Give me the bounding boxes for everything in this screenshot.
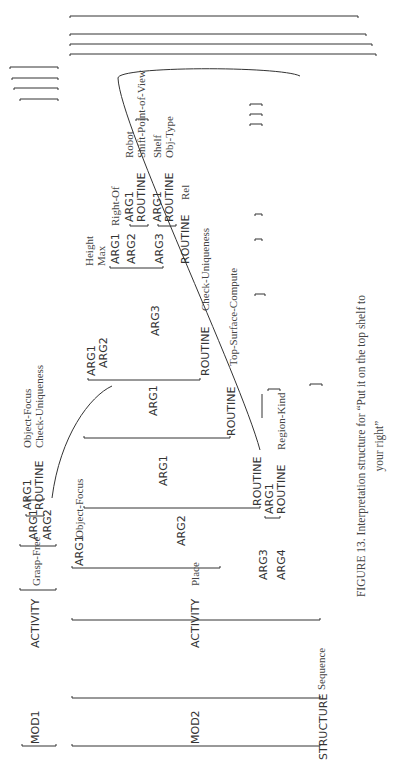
mod2-arg1-key: ARG1: [74, 535, 85, 566]
arg4-routine-key: ROUTINE: [276, 465, 287, 515]
structure-value: Sequence: [316, 648, 327, 690]
deep-arg3-key: ARG3: [150, 305, 161, 336]
height-value: Height: [84, 236, 95, 266]
mod2-arg2-arg1-arg1-key: ARG1: [148, 385, 159, 416]
mod2-activity-key: ACTIVITY: [190, 599, 201, 648]
mod2-arg2-key: ARG2: [176, 515, 187, 546]
mod2-label: MOD2: [190, 710, 201, 744]
arg3-routine-key: ROUTINE: [180, 215, 191, 265]
shelf-arg1-key: ARG1: [152, 191, 163, 222]
mod1-activity-value: Grasp-Free: [31, 537, 42, 586]
right-of-routine-key: ROUTINE: [136, 173, 147, 223]
arg3-arg1-key: ARG1: [110, 233, 121, 264]
mod2-arg2-arg1-key: ARG1: [158, 455, 169, 486]
figure-caption-line1: FIGURE 13. Interpretation structure for …: [356, 216, 368, 676]
deep-arg1-key: ARG1: [86, 345, 97, 376]
arg4-routine-value: Region-Kind: [276, 393, 287, 450]
max-value: Max: [96, 246, 107, 266]
deep-arg2-key: ARG2: [98, 337, 109, 368]
mod1-arg1-key: ARG1: [28, 509, 39, 540]
mod2-arg1-value: Object-Focus: [74, 479, 85, 538]
right-of-arg1-key: ARG1: [124, 191, 135, 222]
deep-routine-key: ROUTINE: [200, 327, 211, 377]
mod2-arg4-key: ARG4: [276, 549, 287, 580]
mod2-arg3-key: ARG3: [258, 549, 269, 580]
mod1-bracket-left: [22, 744, 56, 746]
arg3-routine-value: Rel: [180, 185, 191, 200]
arg3-arg3-key: ARG3: [154, 233, 165, 264]
mod1-activity-key: ACTIVITY: [30, 599, 41, 648]
figure-caption-line2: your right”: [374, 216, 386, 676]
mod1-label: MOD1: [30, 710, 41, 744]
figure-13-interpretation-structure: MOD1 ACTIVITY Grasp-Free ARG1 ARG2 ARG1 …: [0, 0, 407, 766]
mod1-inner-arg1-value: Object-Focus: [22, 389, 33, 448]
mod1-inner-routine-value: Check-Uniqueness: [34, 365, 45, 448]
shelf-arg1-value: Shelf: [152, 135, 163, 158]
arg3-arg2-key: ARG2: [126, 233, 137, 264]
shelf-routine-value: Obj-Type: [164, 116, 175, 158]
deep-routine-value: Check-Uniqueness: [200, 228, 211, 311]
right-of-routine-value: Shift-Point-of-View: [136, 70, 147, 158]
arg4-arg1-key: ARG1: [264, 483, 275, 514]
mod2-arg2-arg1-routine-key: ROUTINE: [226, 387, 237, 437]
structure-key: STRUCTURE: [318, 694, 329, 760]
mod2-activity-value: Place: [190, 562, 201, 586]
right-of-arg1-value: Robot: [124, 131, 135, 158]
mod2-arg2-arg1-routine-value: Top-Surface-Compute: [228, 268, 239, 366]
mod1-inner-arg1-key: ARG1: [22, 479, 33, 510]
bracket-lines: [0, 0, 407, 766]
mod2-arg2-routine-key: ROUTINE: [252, 457, 263, 507]
mod1-inner-routine-key: ROUTINE: [34, 461, 45, 511]
right-of-label: Right-Of: [110, 186, 121, 226]
mod1-arg2-key: ARG2: [42, 509, 53, 540]
shelf-routine-key: ROUTINE: [164, 173, 175, 223]
